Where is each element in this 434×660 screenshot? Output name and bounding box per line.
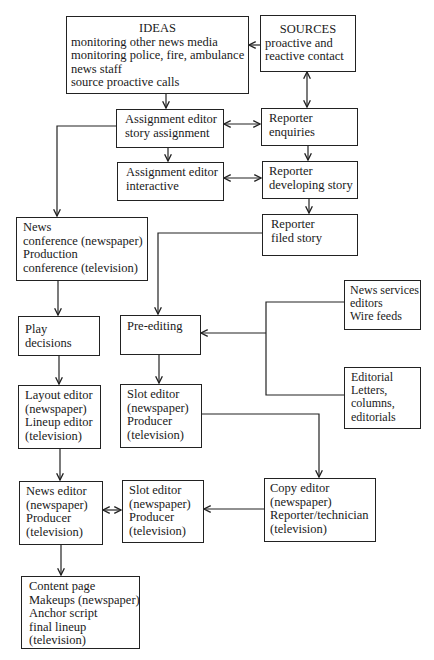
node-news-services: News services editors Wire feeds <box>344 280 421 330</box>
node-line: News editor <box>26 485 98 499</box>
edge-news-services-junction <box>266 302 344 395</box>
node-line: Producer <box>26 512 98 526</box>
node-slot-editor-upper: Slot editor (newspaper) Producer (televi… <box>120 384 202 448</box>
node-title: SOURCES <box>265 23 351 37</box>
node-line: monitoring police, fire, ambulance <box>71 49 244 63</box>
node-line: (television) <box>26 526 98 540</box>
node-line: Production <box>23 248 143 262</box>
edge-filed-pre-editing <box>158 233 262 314</box>
node-line: enquiries <box>269 126 353 140</box>
node-line: decisions <box>25 337 95 351</box>
node-line: proactive and <box>265 37 351 51</box>
node-line: editorials <box>351 411 416 424</box>
flowchart-canvas: IDEAS monitoring other news media monito… <box>0 0 434 660</box>
node-line: Wire feeds <box>350 310 416 323</box>
node-line: interactive <box>126 180 219 194</box>
edge-assign-news-conference <box>57 126 116 216</box>
node-line: conference (newspaper) <box>23 235 143 249</box>
node-line: filed story <box>271 232 353 246</box>
node-line: Lineup editor <box>25 416 96 430</box>
node-editorial: Editorial Letters, columns, editorials <box>344 367 421 429</box>
node-line: Reporter/technician <box>270 509 371 523</box>
node-line: Reporter <box>271 218 353 232</box>
node-line: (television) <box>270 523 371 537</box>
node-line: (television) <box>29 634 135 648</box>
node-line: Slot editor <box>129 484 199 498</box>
node-line: source proactive calls <box>71 76 244 90</box>
node-line: Play <box>25 323 95 337</box>
node-line: (newspaper) <box>270 496 371 510</box>
node-line: Copy editor <box>270 482 371 496</box>
node-pre-editing: Pre-editing <box>120 315 201 355</box>
node-line: (television) <box>25 430 96 444</box>
node-reporter-enquiries: Reporter enquiries <box>261 108 358 146</box>
node-line: conference (television) <box>23 262 143 276</box>
node-line: Anchor script <box>29 607 135 621</box>
node-line: Reporter <box>269 165 353 179</box>
node-line: final lineup <box>29 621 135 635</box>
node-line: (newspaper) <box>129 498 199 512</box>
node-reporter-developing: Reporter developing story <box>262 161 358 199</box>
node-line: columns, <box>351 397 416 410</box>
node-line: story assignment <box>125 127 219 141</box>
node-news-conference: News conference (newspaper) Production c… <box>16 217 148 281</box>
node-line: Slot editor <box>127 388 197 402</box>
node-news-editor: News editor (newspaper) Producer (televi… <box>19 481 103 545</box>
node-line: news staff <box>71 63 244 77</box>
node-assignment-interactive: Assignment editor interactive <box>117 162 224 201</box>
node-line: Pre-editing <box>127 320 196 334</box>
node-line: News <box>23 221 143 235</box>
node-layout-editor: Layout editor (newspaper) Lineup editor … <box>18 385 101 449</box>
node-copy-editor: Copy editor (newspaper) Reporter/technic… <box>264 478 376 542</box>
node-line: reactive contact <box>265 50 351 64</box>
node-sources: SOURCES proactive and reactive contact <box>260 15 356 72</box>
node-play-decisions: Play decisions <box>18 316 100 356</box>
node-content-page: Content page Makeups (newspaper) Anchor … <box>21 576 140 649</box>
node-line: Assignment editor <box>126 166 219 180</box>
node-line: monitoring other news media <box>71 36 244 50</box>
node-line: (television) <box>127 429 197 443</box>
node-slot-editor-lower: Slot editor (newspaper) Producer (televi… <box>122 480 204 543</box>
node-line: (newspaper) <box>25 403 96 417</box>
node-line: (newspaper) <box>127 402 197 416</box>
node-line: Layout editor <box>25 389 96 403</box>
node-ideas: IDEAS monitoring other news media monito… <box>66 16 249 94</box>
node-line: (television) <box>129 525 199 539</box>
node-line: Assignment editor <box>125 113 219 127</box>
node-line: (newspaper) <box>26 499 98 513</box>
node-line: Content page <box>29 580 135 594</box>
node-assignment-story: Assignment editor story assignment <box>116 109 224 148</box>
node-reporter-filed: Reporter filed story <box>262 214 358 256</box>
node-line: Producer <box>129 511 199 525</box>
node-line: Makeups (newspaper) <box>29 594 135 608</box>
edge-slot-copy <box>202 414 319 477</box>
node-line: developing story <box>269 179 353 193</box>
node-line: Reporter <box>269 112 353 126</box>
node-line: Producer <box>127 415 197 429</box>
node-title: IDEAS <box>71 22 244 36</box>
